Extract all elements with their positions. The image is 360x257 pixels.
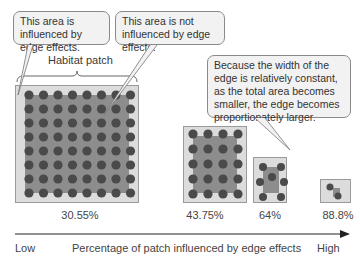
axis-high-label: High	[317, 242, 340, 254]
axis-arrowhead	[340, 230, 350, 238]
percent-tiny: 88.8%	[318, 209, 358, 221]
habitat-brace	[17, 71, 137, 82]
axis-low-label: Low	[15, 242, 35, 254]
tree-icons	[24, 90, 341, 201]
percent-small: 64%	[255, 209, 285, 221]
percent-medium: 43.75%	[180, 209, 230, 221]
axis-title: Percentage of patch influenced by edge e…	[72, 242, 301, 254]
percent-large: 30.55%	[55, 209, 105, 221]
